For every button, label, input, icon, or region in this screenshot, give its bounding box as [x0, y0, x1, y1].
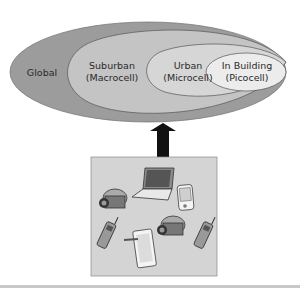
global-label: Global	[22, 67, 62, 79]
in-building-label: In Building (Picocell)	[216, 60, 278, 84]
bottom-divider	[0, 285, 300, 288]
in-building-label-line1: In Building	[216, 60, 278, 72]
global-label-text: Global	[22, 67, 62, 79]
suburban-label-line2: (Macrocell)	[82, 72, 142, 84]
urban-label-line2: (Microcell)	[160, 72, 216, 84]
suburban-label: Suburban (Macrocell)	[82, 60, 142, 84]
cell-hierarchy-diagram	[0, 0, 300, 290]
suburban-label-line1: Suburban	[82, 60, 142, 72]
in-building-label-line2: (Picocell)	[216, 72, 278, 84]
pda-icon	[177, 184, 194, 210]
urban-label-line1: Urban	[160, 60, 216, 72]
urban-label: Urban (Microcell)	[160, 60, 216, 84]
